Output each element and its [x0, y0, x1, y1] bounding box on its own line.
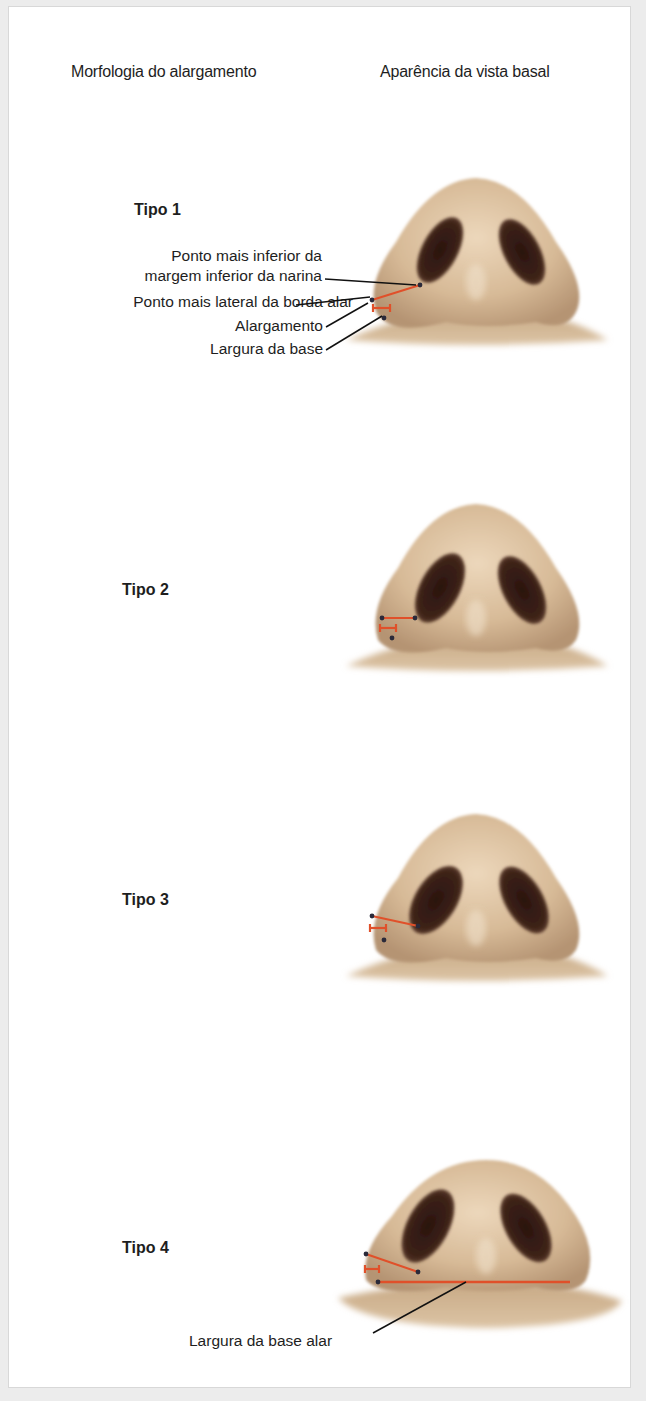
annotation-nostril-lowest-point-line1: Ponto mais inferior da — [171, 246, 322, 266]
annotation-alar-base-width: Largura da base alar — [189, 1331, 332, 1351]
annotation-alar-rim-lateral-point: Ponto mais lateral da borda alar — [133, 292, 353, 312]
type-2-label: Tipo 2 — [122, 581, 169, 599]
annotation-nostril-lowest-point-line2: margem inferior da narina — [145, 266, 322, 286]
annotation-flaring: Alargamento — [235, 316, 323, 336]
nose-illustration-type-2 — [336, 498, 616, 678]
column-header-morphology: Morfologia do alargamento — [71, 63, 256, 81]
type-3-label: Tipo 3 — [122, 891, 169, 909]
type-4-label: Tipo 4 — [122, 1239, 169, 1257]
nose-illustration-type-3 — [336, 808, 616, 988]
annotation-base-width: Largura da base — [210, 339, 323, 359]
nose-illustration-type-1 — [336, 172, 616, 352]
type-1-label: Tipo 1 — [134, 201, 181, 219]
nose-illustration-type-4 — [336, 1156, 626, 1336]
column-header-basal-view: Aparência da vista basal — [380, 63, 550, 81]
